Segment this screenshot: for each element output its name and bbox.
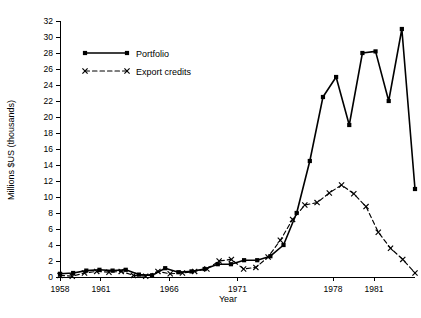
data-point-marker: [387, 99, 391, 103]
data-point-marker: [163, 266, 167, 270]
legend-label: Export credits: [136, 67, 192, 77]
data-point-marker: [83, 51, 87, 55]
y-tick-label: 30: [44, 32, 54, 42]
y-tick-label: 32: [44, 16, 54, 26]
x-tick-label: 1966: [160, 284, 179, 294]
y-tick-label: 18: [44, 128, 54, 138]
data-point-marker: [400, 27, 404, 31]
data-point-marker: [241, 266, 246, 271]
y-tick-label: 14: [44, 160, 54, 170]
data-point-marker: [400, 257, 405, 262]
data-point-marker: [347, 123, 351, 127]
y-tick-label: 12: [44, 176, 54, 186]
y-tick-label: 8: [48, 208, 53, 218]
series-portfolio: [58, 27, 417, 278]
data-point-marker: [125, 51, 129, 55]
x-tick-label: 1961: [92, 284, 111, 294]
data-point-marker: [351, 191, 356, 196]
legend-label: Portfolio: [136, 49, 169, 59]
data-point-marker: [363, 204, 368, 209]
data-point-marker: [334, 75, 338, 79]
line-chart: 02468101214161820222426283032 1958196119…: [0, 0, 421, 318]
x-axis-title: Year: [219, 294, 237, 304]
y-tick-label: 26: [44, 64, 54, 74]
data-point-marker: [278, 238, 283, 243]
x-tick-label: 1971: [228, 284, 247, 294]
y-tick-marks: [56, 21, 60, 277]
x-tick-label: 1981: [365, 284, 384, 294]
legend-item-export-credits: Export credits: [82, 67, 191, 77]
y-tick-label: 22: [44, 96, 54, 106]
series-export-credits: [57, 182, 417, 278]
y-tick-label: 20: [44, 112, 54, 122]
y-tick-label: 2: [48, 256, 53, 266]
data-point-marker: [412, 270, 417, 275]
y-tick-label: 24: [44, 80, 54, 90]
data-point-marker: [321, 95, 325, 99]
y-tick-label: 6: [48, 224, 53, 234]
x-tick-label: 1978: [324, 284, 343, 294]
x-tick-labels: 195819611966197119781981: [51, 284, 384, 294]
series-layer: [57, 27, 417, 279]
data-point-marker: [124, 268, 128, 272]
y-axis-title: Millions $US (thousands): [6, 100, 16, 200]
legend-item-portfolio: Portfolio: [83, 49, 169, 59]
data-point-marker: [360, 51, 364, 55]
data-point-marker: [229, 262, 233, 266]
x-tick-label: 1958: [51, 284, 70, 294]
y-tick-labels: 02468101214161820222426283032: [44, 16, 54, 282]
data-point-marker: [327, 190, 332, 195]
data-point-marker: [373, 49, 377, 53]
y-tick-label: 28: [44, 48, 54, 58]
data-point-marker: [388, 246, 393, 251]
data-point-marker: [339, 182, 344, 187]
data-point-marker: [242, 258, 246, 262]
y-tick-label: 0: [48, 272, 53, 282]
chart-legend: PortfolioExport credits: [82, 49, 191, 77]
data-point-marker: [255, 258, 259, 262]
data-point-marker: [281, 243, 285, 247]
data-point-marker: [413, 187, 417, 191]
x-tick-marks: [60, 277, 374, 281]
data-point-marker: [308, 159, 312, 163]
y-tick-label: 16: [44, 144, 54, 154]
y-tick-label: 4: [48, 240, 53, 250]
y-tick-label: 10: [44, 192, 54, 202]
chart-figure: 02468101214161820222426283032 1958196119…: [0, 0, 421, 318]
data-point-marker: [376, 230, 381, 235]
